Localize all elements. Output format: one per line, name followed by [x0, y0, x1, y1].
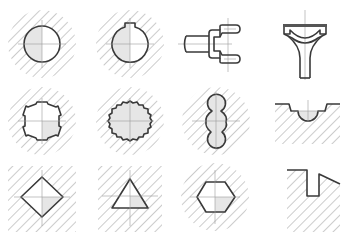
technical-drawing-plate	[0, 0, 349, 241]
cap-flange	[283, 24, 327, 27]
figure-fork-yoke	[178, 18, 240, 72]
figure-square-hole	[8, 166, 76, 232]
figure-triangular-hole	[98, 166, 162, 232]
figure-bearing-rod	[283, 10, 327, 80]
figure-slot-notch	[287, 170, 340, 232]
figure-semicircular-groove	[275, 100, 340, 144]
figure-round-hole	[8, 10, 76, 78]
figure-splined-hole	[8, 87, 76, 155]
figure-keyed-hole	[96, 10, 164, 78]
figure-serrated-hole	[96, 87, 164, 155]
figure-eight-profile	[182, 87, 250, 155]
figure-hexagonal-hole	[181, 163, 249, 231]
